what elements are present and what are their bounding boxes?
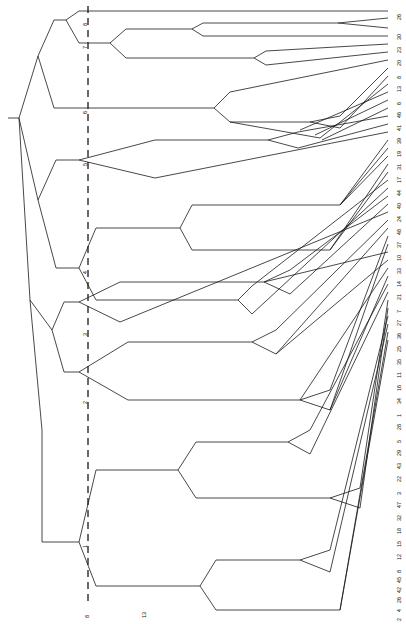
leaf-label: 39	[397, 138, 402, 144]
leaf-label: 48	[397, 229, 402, 235]
leaf-label: 31	[397, 164, 402, 170]
cluster-node-2: 2	[83, 401, 88, 404]
cluster-node-7: 7	[83, 46, 88, 49]
leaf-label: 30	[397, 34, 402, 40]
leaf-label: 21	[397, 294, 402, 300]
axis-tick-cut: 8	[85, 615, 90, 618]
leaf-label: 18	[397, 528, 402, 534]
dendrogram-figure: 26 30 23 20 8 13 6 46 41 39 19 31 17 44 …	[0, 0, 406, 624]
leaf-label: 27	[397, 320, 402, 326]
leaf-label: 35	[397, 359, 402, 365]
leaf-label: 16	[397, 385, 402, 391]
leaf-label: 14	[397, 281, 402, 287]
leaf-label: 25	[397, 346, 402, 352]
leaf-label: 4	[397, 609, 402, 612]
cluster-node-5: 5	[83, 163, 88, 166]
leaf-label: 36	[397, 333, 402, 339]
leaf-label: 15	[397, 541, 402, 547]
leaf-label: 24	[397, 216, 402, 222]
leaf-label: 10	[397, 255, 402, 261]
leaf-label: 45	[397, 577, 402, 583]
leaf-label: 8	[397, 570, 402, 573]
leaf-label: 29	[397, 450, 402, 456]
leaf-label: 20	[397, 60, 402, 66]
leaf-label: 43	[397, 463, 402, 469]
leaf-label: 2	[397, 618, 402, 621]
leaf-label: 34	[397, 398, 402, 404]
leaf-label: 47	[397, 502, 402, 508]
leaf-label: 11	[397, 372, 402, 378]
cluster-node-4: 4	[83, 271, 88, 274]
leaf-label: 32	[397, 515, 402, 521]
leaf-label: 28	[397, 424, 402, 430]
leaf-label: 44	[397, 190, 402, 196]
leaf-label: 3	[397, 492, 402, 495]
leaf-label: 40	[397, 203, 402, 209]
leaf-label: 26	[397, 14, 402, 20]
leaf-label: 41	[397, 125, 402, 131]
leaf-label: 23	[397, 47, 402, 53]
cluster-node-3: 3	[83, 333, 88, 336]
leaf-label: 1	[397, 414, 402, 417]
leaf-label: 26	[397, 597, 402, 603]
leaf-label: 12	[397, 554, 402, 560]
dendrogram-plot	[0, 0, 406, 624]
leaf-label: 7	[397, 310, 402, 313]
leaf-label: 22	[397, 476, 402, 482]
dendrogram-branches	[8, 11, 388, 610]
axis-tick-scale: 13	[142, 612, 147, 618]
leaf-label: 42	[397, 587, 402, 593]
cluster-node-8: 8	[83, 23, 88, 26]
leaf-label: 13	[397, 86, 402, 92]
leaf-label: 6	[397, 102, 402, 105]
leaf-label: 19	[397, 151, 402, 157]
cluster-node-6: 6	[83, 111, 88, 114]
leaf-label: 37	[397, 242, 402, 248]
leaf-label: 5	[397, 440, 402, 443]
cluster-node-1: 1	[83, 545, 88, 548]
leaf-label: 8	[397, 76, 402, 79]
leaf-label: 33	[397, 268, 402, 274]
leaf-label: 46	[397, 112, 402, 118]
leaf-label: 17	[397, 177, 402, 183]
